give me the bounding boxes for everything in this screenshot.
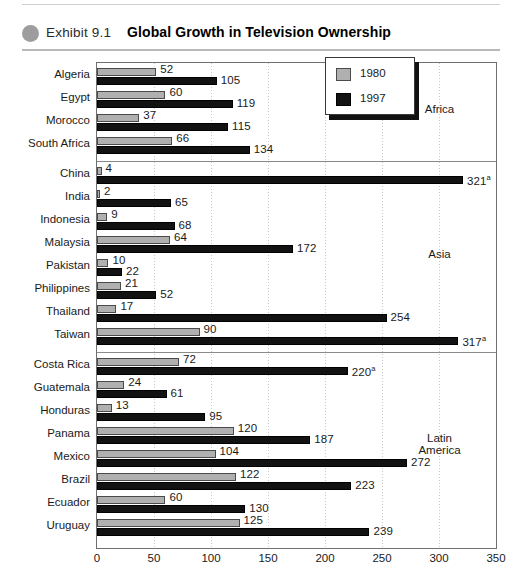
bar-1980	[97, 282, 121, 290]
category-label: Thailand	[46, 305, 90, 317]
chart-row: Taiwan90317a	[97, 326, 496, 349]
value-label-1980: 24	[128, 376, 141, 388]
category-label: Morocco	[46, 114, 90, 126]
category-label: Philippines	[34, 282, 90, 294]
bar-1997	[97, 146, 250, 154]
bar-1980	[97, 91, 165, 99]
x-axis-tick-350: 350	[486, 552, 505, 564]
category-label: Guatemala	[34, 381, 90, 393]
value-label-1980: 13	[116, 399, 129, 411]
bar-1997	[97, 245, 293, 253]
category-label: Pakistan	[46, 259, 90, 271]
region-separator	[97, 352, 496, 353]
bar-1980	[97, 404, 112, 412]
bar-1997	[97, 505, 245, 513]
value-label-1980: 60	[169, 491, 182, 503]
chart-plot-area: Algeria52105Egypt60119Morocco37115South …	[96, 62, 497, 549]
chart-row: South Africa66134	[97, 135, 496, 158]
page-title: Global Growth in Television Ownership	[127, 24, 391, 40]
chart-row: Costa Rica72220a	[97, 356, 496, 379]
value-label-1980: 122	[240, 468, 260, 480]
chart-row: Guatemala2461	[97, 379, 496, 402]
value-label-1980: 64	[174, 231, 187, 243]
header-rule-top	[22, 4, 500, 5]
value-label-1997: 134	[254, 143, 274, 155]
value-label-1997: 172	[297, 242, 317, 254]
bar-1997	[97, 314, 387, 322]
x-axis-tick-100: 100	[201, 552, 220, 564]
bar-1980	[97, 519, 240, 527]
value-label-1997: 220a	[352, 364, 376, 378]
chart-row: Indonesia968	[97, 211, 496, 234]
bar-1997	[97, 100, 233, 108]
category-label: Mexico	[54, 450, 90, 462]
value-label-1980: 120	[238, 422, 258, 434]
value-label-1980: 66	[176, 132, 189, 144]
x-axis-tick-250: 250	[372, 552, 391, 564]
category-label: China	[60, 167, 90, 179]
value-label-1997: 187	[314, 433, 334, 445]
category-label: Ecuador	[47, 496, 90, 508]
bar-1997	[97, 77, 217, 85]
chart-row: Uruguay125239	[97, 517, 496, 540]
value-label-1997: 239	[373, 525, 393, 537]
bar-1997	[97, 199, 171, 207]
x-axis-tick-200: 200	[315, 552, 334, 564]
legend-label: 1980	[360, 67, 386, 79]
chart-row: Thailand17254	[97, 303, 496, 326]
exhibit-header: Exhibit 9.1 Global Growth in Television …	[22, 22, 502, 48]
bar-1997	[97, 176, 463, 184]
chart-row: Pakistan1022	[97, 257, 496, 280]
value-label-1980: 37	[143, 109, 156, 121]
value-label-1997: 317a	[462, 334, 486, 348]
value-label-1997: 61	[171, 387, 184, 399]
value-label-1997: 52	[160, 288, 173, 300]
value-label-1980: 60	[169, 86, 182, 98]
value-label-1980: 52	[160, 63, 173, 75]
bar-1997	[97, 123, 228, 131]
region-separator	[97, 161, 496, 162]
value-label-1980: 90	[204, 323, 217, 335]
value-label-1980: 10	[112, 254, 125, 266]
category-label: South Africa	[28, 137, 90, 149]
region-label: LatinAmerica	[397, 432, 482, 456]
value-label-1997: 321a	[467, 173, 491, 187]
bar-1997	[97, 367, 348, 375]
value-label-1997: 130	[249, 502, 269, 514]
x-axis-tick-300: 300	[429, 552, 448, 564]
legend-swatch-1980	[336, 68, 351, 81]
bar-1980	[97, 328, 200, 336]
category-label: Algeria	[54, 68, 90, 80]
chart-row: China4321a	[97, 165, 496, 188]
value-label-1997: 95	[209, 410, 222, 422]
bar-1997	[97, 482, 351, 490]
category-label: Honduras	[40, 404, 90, 416]
bar-1980	[97, 68, 156, 76]
category-label: Malaysia	[45, 236, 90, 248]
value-label-1980: 72	[183, 353, 196, 365]
bar-1980	[97, 450, 216, 458]
bar-1997	[97, 337, 458, 345]
chart-row: Morocco37115	[97, 112, 496, 135]
bar-1997	[97, 528, 369, 536]
bar-1980	[97, 167, 102, 175]
value-label-1997: 119	[237, 97, 256, 109]
chart-row: Philippines2152	[97, 280, 496, 303]
value-label-1980: 17	[120, 300, 133, 312]
chart-row: Honduras1395	[97, 402, 496, 425]
value-label-1997: 22	[126, 265, 139, 277]
value-label-1980: 21	[125, 277, 138, 289]
bar-1980	[97, 358, 179, 366]
bar-1980	[97, 381, 124, 389]
value-label-1980: 125	[244, 514, 264, 526]
bar-1997	[97, 268, 122, 276]
value-label-1997: 223	[355, 479, 375, 491]
x-axis-tick-0: 0	[94, 552, 100, 564]
bar-1980	[97, 259, 108, 267]
bar-1980	[97, 496, 165, 504]
chart-legend: 19801997	[325, 57, 415, 115]
category-label: Brazil	[61, 473, 90, 485]
category-label: Costa Rica	[34, 358, 90, 370]
category-label: Egypt	[61, 91, 90, 103]
value-label-1980: 104	[220, 445, 240, 457]
